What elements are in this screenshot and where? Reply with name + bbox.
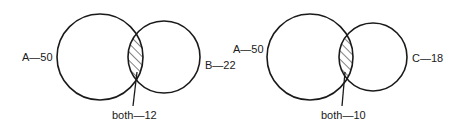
label-set-c: C—18 bbox=[412, 52, 443, 64]
venn-diagrams: A—50 B—22 both—12 A—50 C—18 both—10 bbox=[0, 0, 466, 130]
label-set-a: A—50 bbox=[22, 51, 53, 63]
label-set-a: A—50 bbox=[233, 43, 264, 55]
label-set-b: B—22 bbox=[205, 59, 236, 71]
venn-diagram-a-c: A—50 C—18 both—10 bbox=[233, 14, 443, 121]
overlap-leader-line bbox=[342, 72, 345, 106]
label-overlap: both—10 bbox=[321, 109, 366, 121]
label-overlap: both—12 bbox=[112, 109, 157, 121]
venn-diagram-a-b: A—50 B—22 both—12 bbox=[22, 14, 236, 121]
